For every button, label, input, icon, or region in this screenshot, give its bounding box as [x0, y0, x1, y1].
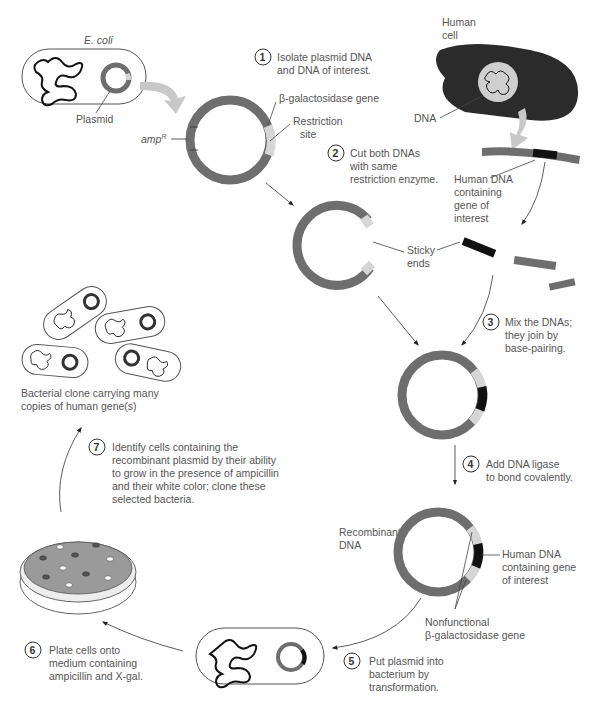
svg-text:site: site: [300, 128, 317, 140]
svg-text:ends: ends: [407, 257, 430, 269]
svg-text:DNA: DNA: [414, 112, 436, 124]
chromosome-icon: [34, 58, 82, 105]
step-4: 4 Add DNA ligase to bond covalently.: [463, 456, 573, 483]
svg-text:to bond covalently.: to bond covalently.: [486, 471, 573, 483]
svg-text:ampicillin and X-gal.: ampicillin and X-gal.: [49, 670, 143, 682]
svg-text:bacterium by: bacterium by: [369, 668, 430, 680]
step-5: 5 Put plasmid into bacterium by transfor…: [344, 653, 444, 693]
ecoli-label: E. coli: [84, 34, 113, 46]
svg-text:interest: interest: [454, 212, 489, 224]
ecoli-cell: E. coli Plasmid: [22, 34, 146, 125]
svg-text:Plate cells onto: Plate cells onto: [49, 644, 120, 656]
step-3: 3 Mix the DNAs; they join by base-pairin…: [483, 314, 572, 354]
step-7: 7 Identify cells containing the recombin…: [89, 439, 279, 505]
svg-text:selected bacteria.: selected bacteria.: [112, 493, 194, 505]
svg-text:they join by: they join by: [505, 329, 559, 341]
petri-dish: [20, 542, 136, 614]
human-dna-strand: Human DNA containing gene of interest: [454, 147, 580, 224]
svg-text:Bacterial clone carrying many: Bacterial clone carrying many: [21, 387, 159, 399]
svg-text:Put plasmid into: Put plasmid into: [369, 655, 444, 667]
svg-text:Cut both DNAs: Cut both DNAs: [350, 147, 420, 159]
svg-text:recombinant plasmid by their a: recombinant plasmid by their ability: [112, 454, 277, 466]
svg-text:5: 5: [349, 655, 355, 667]
step-2: 2 Cut both DNAs with same restriction en…: [328, 145, 438, 185]
svg-text:β-galactosidase gene: β-galactosidase gene: [425, 629, 525, 641]
svg-text:with same: with same: [349, 160, 397, 172]
step-6: 6 Plate cells onto medium containing amp…: [25, 642, 143, 682]
svg-text:Restriction: Restriction: [293, 115, 343, 127]
transfer-arrow-icon: [140, 82, 186, 114]
cut-plasmid: Sticky ends: [297, 205, 460, 285]
human-cell: Human cell DNA: [414, 16, 578, 150]
svg-text:Mix the DNAs;: Mix the DNAs;: [505, 316, 572, 328]
beta-gal-label: β-galactosidase gene: [279, 92, 379, 104]
plasmid-small-icon: [103, 65, 129, 91]
svg-text:DNA: DNA: [339, 539, 361, 551]
svg-text:7: 7: [94, 441, 100, 453]
transformed-bacterium: [196, 628, 324, 687]
svg-text:containing gene: containing gene: [502, 561, 576, 573]
svg-text:copies of human gene(s): copies of human gene(s): [21, 400, 137, 412]
recombinant-plasmid: Recombinant DNA Human DNA containing gen…: [339, 512, 576, 641]
svg-text:Recombinant: Recombinant: [339, 526, 401, 538]
svg-text:and DNA of interest.: and DNA of interest.: [277, 64, 371, 76]
svg-text:Human: Human: [442, 16, 476, 28]
svg-text:4: 4: [468, 458, 474, 470]
svg-text:Add DNA ligase: Add DNA ligase: [486, 458, 560, 470]
svg-text:3: 3: [488, 316, 494, 328]
svg-text:of interest: of interest: [502, 574, 548, 586]
svg-text:and their white color; clone t: and their white color; clone these: [112, 480, 266, 492]
svg-text:containing: containing: [454, 186, 502, 198]
joined-plasmid: [402, 355, 483, 435]
svg-text:transformation.: transformation.: [369, 681, 439, 693]
svg-text:to grow in the presence of amp: to grow in the presence of ampicillin: [112, 467, 279, 479]
svg-text:Identify cells containing the: Identify cells containing the: [112, 441, 238, 453]
svg-text:2: 2: [333, 147, 339, 159]
svg-text:medium containing: medium containing: [49, 657, 137, 669]
svg-text:base-pairing.: base-pairing.: [505, 342, 566, 354]
ampR-label: ampR: [141, 133, 167, 145]
svg-text:1: 1: [260, 51, 266, 63]
svg-text:6: 6: [30, 644, 36, 656]
svg-text:Human DNA: Human DNA: [454, 173, 513, 185]
svg-text:Isolate plasmid DNA: Isolate plasmid DNA: [277, 51, 372, 63]
svg-text:Sticky: Sticky: [407, 244, 436, 256]
nucleus-icon: [478, 62, 518, 102]
step-1: 1 Isolate plasmid DNA and DNA of interes…: [255, 49, 372, 76]
svg-text:gene of: gene of: [454, 199, 489, 211]
recombinant-dna-cloning-diagram: E. coli Plasmid 1 Isolate plasmid DNA an…: [0, 0, 595, 703]
bacterial-clone: Bacterial clone carrying many copies of …: [21, 281, 184, 412]
plasmid-label: Plasmid: [76, 113, 114, 125]
svg-text:Nonfunctional: Nonfunctional: [425, 616, 489, 628]
svg-text:Human DNA: Human DNA: [502, 548, 561, 560]
svg-text:cell: cell: [442, 29, 458, 41]
dna-fragments: [462, 237, 576, 290]
svg-text:restriction enzyme.: restriction enzyme.: [350, 173, 438, 185]
